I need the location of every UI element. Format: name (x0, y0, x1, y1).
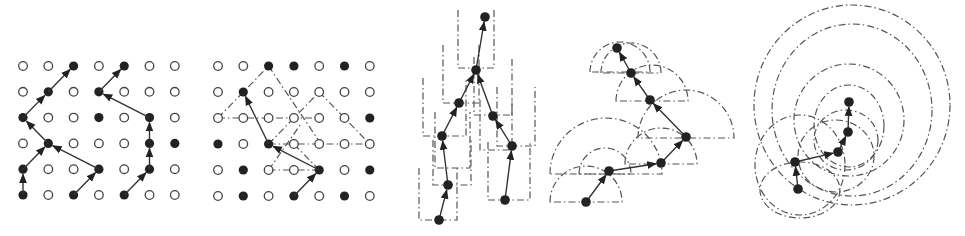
empty-node (95, 191, 104, 200)
empty-node (366, 62, 375, 71)
dashed-region-line (218, 66, 319, 141)
dashed-circle-region (814, 110, 878, 170)
empty-node (69, 88, 78, 97)
diagram-canvas (0, 0, 965, 236)
empty-node (366, 88, 375, 97)
filled-node (239, 87, 248, 96)
filled-node (239, 191, 248, 200)
tree-node (471, 65, 481, 75)
path-arrow (23, 95, 45, 117)
empty-node (340, 114, 349, 123)
path-arrow (23, 147, 45, 169)
empty-node (171, 113, 180, 122)
path-arrow (124, 173, 146, 195)
empty-node (264, 114, 273, 123)
tree-node (844, 97, 854, 107)
tree-node (656, 158, 666, 168)
empty-node (239, 114, 248, 123)
empty-node (19, 139, 28, 148)
tree-edge-arrow (459, 74, 474, 103)
tree-node (488, 111, 498, 121)
tree-node (833, 147, 843, 157)
tree-node (681, 132, 691, 142)
tree-node (443, 180, 453, 190)
empty-node (366, 192, 375, 201)
empty-node (171, 88, 180, 97)
empty-node (69, 139, 78, 148)
tree-node (793, 184, 803, 194)
filled-node (365, 165, 374, 174)
tree-edge-arrow (505, 151, 511, 200)
path-arrow (294, 174, 316, 196)
dashed-box-region (433, 140, 471, 185)
empty-node (315, 114, 324, 123)
empty-node (69, 113, 78, 122)
filled-node (69, 61, 78, 70)
empty-node (239, 62, 248, 71)
empty-node (19, 88, 28, 97)
empty-node (95, 62, 104, 71)
tree-edge-arrow (478, 75, 493, 116)
empty-node (340, 166, 349, 175)
empty-node (44, 62, 53, 71)
filled-node (340, 61, 349, 70)
filled-node (239, 165, 248, 174)
tree-node (480, 12, 490, 22)
tree-edge-arrow (586, 175, 606, 202)
tree-edge-arrow (476, 22, 484, 70)
empty-node (315, 192, 324, 201)
filled-node (170, 139, 179, 148)
tree-edge-arrow (443, 141, 448, 185)
dashed-box-region (419, 168, 457, 220)
tree-node (507, 141, 517, 151)
tree-node (434, 215, 444, 225)
filled-node (289, 61, 298, 70)
tree-node (626, 68, 636, 78)
empty-node (44, 191, 53, 200)
tree-edge-arrow (795, 153, 833, 162)
path-arrow (74, 173, 96, 195)
tree-node (604, 166, 614, 176)
tree-edge-arrow (653, 104, 686, 137)
empty-node (120, 113, 129, 122)
path-arrow (48, 70, 70, 92)
dashed-box-region (497, 87, 535, 146)
empty-node (95, 139, 104, 148)
empty-node (315, 88, 324, 97)
empty-node (145, 62, 154, 71)
filled-node (264, 61, 273, 70)
dashed-semicircle-region (616, 65, 688, 101)
empty-node (214, 166, 223, 175)
dashed-circle-region (755, 115, 845, 215)
tree-node (645, 95, 655, 105)
empty-node (340, 140, 349, 149)
panel-tree-circles-5 (754, 5, 950, 218)
filled-node (340, 191, 349, 200)
empty-node (44, 165, 53, 174)
empty-node (120, 165, 129, 174)
empty-node (214, 192, 223, 201)
empty-node (44, 113, 53, 122)
dashed-region-line (294, 144, 319, 170)
empty-node (264, 192, 273, 201)
panel-tree-semicircles-4 (550, 42, 734, 207)
empty-node (145, 191, 154, 200)
filled-node (94, 113, 103, 122)
empty-node (19, 62, 28, 71)
panel-grid-paths-1 (18, 61, 179, 199)
empty-node (239, 140, 248, 149)
empty-node (315, 62, 324, 71)
empty-node (264, 88, 273, 97)
empty-node (214, 62, 223, 71)
empty-node (171, 62, 180, 71)
filled-node (120, 61, 129, 70)
empty-node (264, 166, 273, 175)
tree-edge-arrow (442, 107, 457, 136)
empty-node (145, 88, 154, 97)
empty-node (171, 191, 180, 200)
dashed-box-region (480, 100, 512, 150)
filled-node (213, 139, 222, 148)
empty-node (315, 140, 324, 149)
tree-node (790, 157, 800, 167)
tree-node (612, 43, 622, 53)
